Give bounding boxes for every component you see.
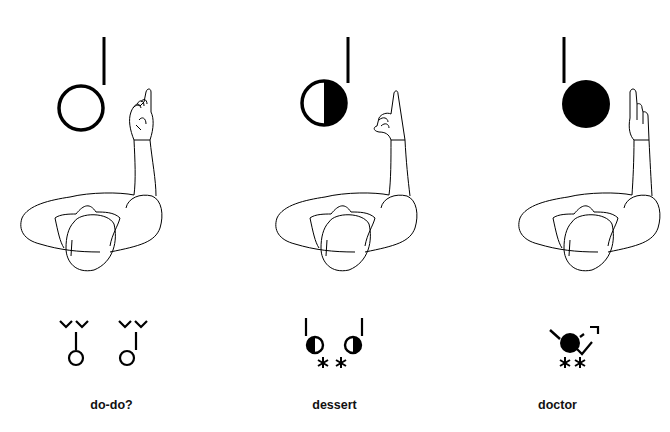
notation-do-do-icon <box>60 321 147 365</box>
sign-figure-do-do <box>0 0 223 432</box>
sign-label: dessert <box>223 398 446 412</box>
sign-figure-dessert <box>223 0 446 432</box>
hand-icon <box>130 89 154 140</box>
filled-circle-handshape-icon <box>562 37 610 128</box>
half-circle-handshape-icon <box>302 37 348 125</box>
sign-label: do-do? <box>0 398 223 412</box>
body-outline-icon <box>21 140 162 271</box>
notation-doctor-icon <box>550 327 598 368</box>
empty-circle-handshape-icon <box>59 37 104 130</box>
panel-dessert: dessert <box>223 0 446 432</box>
sign-figure-doctor <box>446 0 670 432</box>
panel-doctor: doctor <box>446 0 669 432</box>
notation-dessert-icon <box>306 318 362 368</box>
body-outline-icon <box>519 140 660 271</box>
hand-icon <box>374 91 405 140</box>
panel-do-do: do-do? <box>0 0 223 432</box>
body-outline-icon <box>276 140 417 271</box>
hand-icon <box>629 89 649 140</box>
sign-label: doctor <box>446 398 669 412</box>
